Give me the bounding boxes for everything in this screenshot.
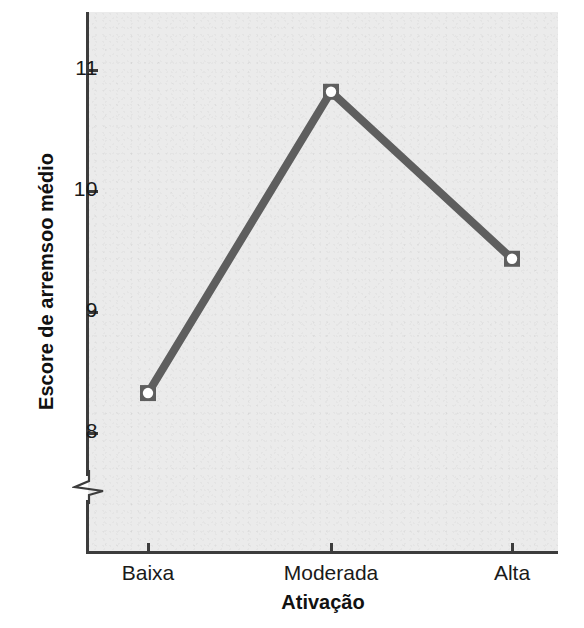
x-tick-label-baixa: Baixa — [58, 561, 238, 585]
y-tick-label-11: 11 — [52, 56, 98, 80]
plot-area — [88, 12, 558, 552]
x-axis-line — [86, 551, 558, 554]
y-tick-label-8: 8 — [52, 419, 98, 443]
axis-break-icon — [72, 470, 106, 504]
x-tick-mark-baixa — [147, 543, 150, 552]
y-axis-line-lower — [86, 500, 89, 553]
line-chart-figure: 11 10 9 8 Baixa Moderada Alta Escore de … — [0, 0, 584, 628]
y-tick-label-9: 9 — [52, 298, 98, 322]
x-tick-mark-moderada — [330, 543, 333, 552]
x-tick-label-alta: Alta — [422, 561, 584, 585]
y-axis-line-upper — [86, 12, 89, 476]
x-tick-label-moderada: Moderada — [241, 561, 421, 585]
y-tick-label-10: 10 — [52, 177, 98, 201]
x-tick-mark-alta — [511, 543, 514, 552]
x-axis-title: Ativação — [88, 591, 558, 614]
y-axis-title: Escore de arremsoo médio — [35, 22, 58, 542]
